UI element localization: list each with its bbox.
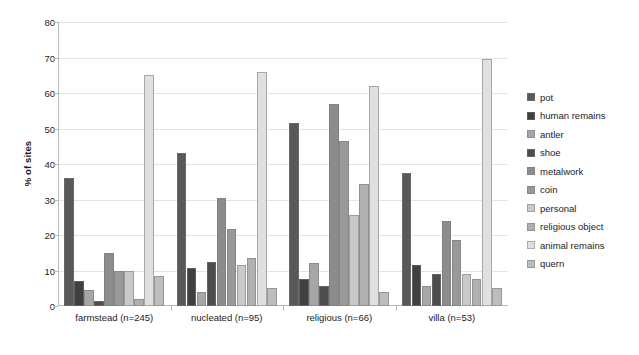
legend-item-personal: personal [527,199,605,218]
x-tick-mark [171,306,172,311]
x-tick-label: nucleated (n=95) [191,312,263,323]
y-tick-label: 70 [25,52,55,63]
legend-label: personal [540,203,576,214]
bar [402,173,412,306]
bar [257,72,267,306]
x-tick-label: religious (n=66) [306,312,372,323]
bar [64,178,74,306]
legend-item-religious-object: religious object [527,218,605,237]
bar [74,281,84,306]
bar [237,265,247,306]
bar-group [58,22,171,306]
bar [187,268,197,306]
bar [442,221,452,306]
bar [339,141,349,306]
bar [462,274,472,306]
bar [177,153,187,306]
legend-item-coin: coin [527,181,605,200]
legend-item-antler: antler [527,125,605,144]
bar [432,274,442,306]
bar [309,263,319,306]
y-tick-label: 60 [25,88,55,99]
legend-label: shoe [540,147,561,158]
y-tick-label: 40 [25,159,55,170]
bar [422,286,432,306]
x-tick-label: villa (n=53) [428,312,475,323]
bar [492,288,502,306]
bar [359,184,369,306]
bar [207,262,217,306]
legend-swatch-icon [527,149,535,157]
y-tick-mark [54,306,58,307]
legend: pothuman remainsantlershoemetalworkcoinp… [527,88,605,273]
legend-label: antler [540,129,564,140]
legend-item-human-remains: human remains [527,107,605,126]
legend-swatch-icon [527,112,535,120]
plot-area [58,22,508,306]
y-tick-label: 30 [25,194,55,205]
y-tick-label: 10 [25,265,55,276]
legend-swatch-icon [527,223,535,231]
x-tick-mark [396,306,397,311]
bar [329,104,339,306]
bar [482,59,492,306]
legend-label: animal remains [540,240,604,251]
bar [452,240,462,306]
bar [349,215,359,306]
x-tick-mark [283,306,284,311]
y-tick-label: 0 [25,301,55,312]
bar [94,301,104,306]
bar [267,288,277,306]
bar-group [283,22,396,306]
legend-label: coin [540,184,557,195]
legend-swatch-icon [527,130,535,138]
x-tick-label: farmstead (n=245) [75,312,153,323]
legend-label: pot [540,92,553,103]
bar-group [396,22,509,306]
legend-swatch-icon [527,186,535,194]
legend-label: religious object [540,221,603,232]
bar [84,290,94,306]
legend-label: metalwork [540,166,583,177]
bar [217,198,227,306]
bar [144,75,154,306]
bar [104,253,114,306]
legend-swatch-icon [527,93,535,101]
bar [114,271,124,307]
bar [379,292,389,306]
bar [154,276,164,306]
legend-swatch-icon [527,241,535,249]
legend-item-animal-remains: animal remains [527,236,605,255]
legend-label: quern [540,258,564,269]
bar [289,123,299,306]
bar [319,286,329,306]
y-tick-label: 20 [25,230,55,241]
bar [369,86,379,306]
legend-label: human remains [540,110,605,121]
legend-item-shoe: shoe [527,144,605,163]
bar-chart: % of sites 01020304050607080 farmstead (… [0,0,639,355]
legend-swatch-icon [527,260,535,268]
legend-swatch-icon [527,167,535,175]
bar [197,292,207,306]
bar [472,279,482,306]
bar [227,229,237,306]
y-tick-label: 50 [25,123,55,134]
y-tick-label: 80 [25,17,55,28]
bar [412,265,422,306]
bar-group [171,22,284,306]
legend-swatch-icon [527,204,535,212]
legend-item-quern: quern [527,255,605,274]
legend-item-pot: pot [527,88,605,107]
bar [299,279,309,306]
legend-item-metalwork: metalwork [527,162,605,181]
bar [134,299,144,306]
bar [247,258,257,306]
bar [124,271,134,307]
